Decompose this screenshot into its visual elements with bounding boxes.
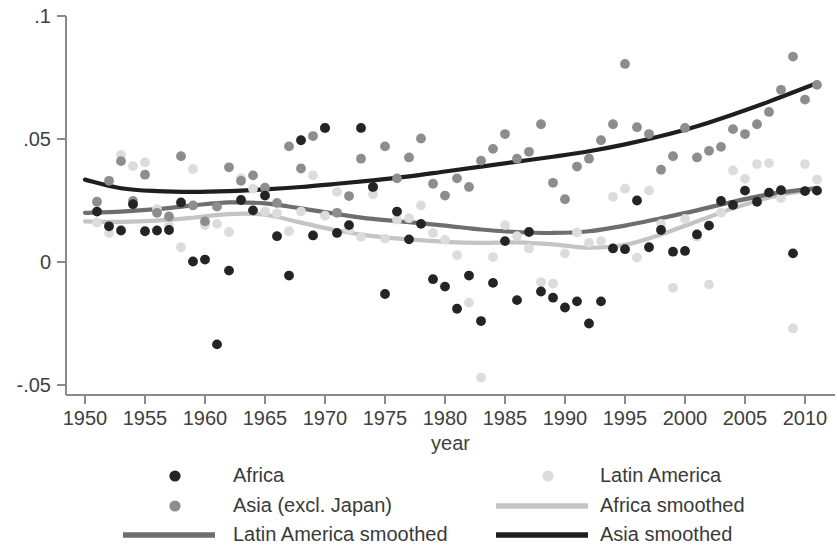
data-point — [92, 207, 102, 217]
data-point — [740, 174, 750, 184]
data-point — [332, 208, 342, 218]
scatter-series-africa — [92, 123, 822, 349]
data-point — [584, 319, 594, 329]
data-point — [416, 134, 426, 144]
data-point — [740, 129, 750, 139]
data-point — [248, 184, 258, 194]
data-point — [116, 226, 126, 236]
data-point — [224, 162, 234, 172]
data-point — [680, 246, 690, 256]
data-point — [596, 296, 606, 306]
data-point — [176, 242, 186, 252]
legend-label: Africa smoothed — [600, 494, 745, 516]
data-point — [812, 80, 822, 90]
scatter-series-asia-excl-japan — [92, 52, 822, 227]
data-point — [308, 131, 318, 141]
data-point — [308, 171, 318, 181]
data-point — [272, 231, 282, 241]
data-point — [116, 156, 126, 166]
data-point — [392, 173, 402, 183]
data-point — [224, 227, 234, 237]
data-point — [464, 298, 474, 308]
data-point — [812, 175, 822, 185]
x-tick-label: 1955 — [123, 407, 168, 429]
data-point — [404, 153, 414, 163]
legend-label: Africa — [233, 464, 285, 486]
data-point — [572, 162, 582, 172]
data-point — [308, 231, 318, 241]
data-point — [512, 295, 522, 305]
data-point — [524, 147, 534, 157]
data-point — [212, 202, 222, 212]
data-point — [236, 176, 246, 186]
legend-label: Asia smoothed — [600, 523, 732, 545]
data-point — [380, 289, 390, 299]
data-point — [104, 221, 114, 231]
data-point — [296, 164, 306, 174]
data-point — [800, 95, 810, 105]
data-point — [716, 196, 726, 206]
data-point — [800, 159, 810, 169]
data-point — [200, 217, 210, 227]
data-point — [428, 179, 438, 189]
data-point — [476, 316, 486, 326]
data-point — [404, 234, 414, 244]
legend-dot-marker-icon — [169, 500, 180, 511]
data-point — [788, 52, 798, 62]
data-point — [356, 154, 366, 164]
data-point — [584, 238, 594, 248]
data-point — [332, 228, 342, 238]
data-point — [632, 122, 642, 132]
data-point — [644, 186, 654, 196]
data-point — [548, 178, 558, 188]
data-point — [644, 129, 654, 139]
data-point — [500, 129, 510, 139]
y-tick-label: .05 — [23, 128, 51, 150]
trend-line-asia-smoothed — [85, 83, 817, 192]
data-point — [560, 248, 570, 258]
data-point — [188, 164, 198, 174]
data-point — [260, 207, 270, 217]
data-point — [752, 197, 762, 207]
legend-dot-marker-icon — [169, 470, 180, 481]
x-tick-label: 1985 — [483, 407, 528, 429]
legend-item-asia-smoothed[interactable]: Asia smoothed — [496, 523, 732, 545]
data-point — [488, 144, 498, 154]
y-tick-label: -.05 — [17, 374, 51, 396]
data-point — [536, 277, 546, 287]
data-point — [668, 151, 678, 161]
legend-item-africa-smoothed[interactable]: Africa smoothed — [496, 494, 745, 516]
legend-item-asia-excl-japan[interactable]: Asia (excl. Japan) — [169, 494, 392, 516]
x-axis-ticks: 1950195519601965197019751980198519901995… — [63, 395, 828, 429]
data-point — [440, 191, 450, 201]
data-point — [176, 151, 186, 161]
legend-item-africa[interactable]: Africa — [169, 464, 285, 486]
data-point — [512, 154, 522, 164]
data-point — [608, 119, 618, 129]
data-point — [728, 166, 738, 176]
data-point — [140, 226, 150, 236]
data-point — [284, 226, 294, 236]
legend-item-latin-america-smoothed[interactable]: Latin America smoothed — [123, 523, 448, 545]
data-point — [176, 198, 186, 208]
data-point — [632, 253, 642, 263]
data-point — [416, 201, 426, 211]
legend-label: Latin America — [600, 464, 722, 486]
chart-canvas: -.050.05.1 19501955196019651970197519801… — [0, 0, 837, 552]
data-point — [656, 165, 666, 175]
data-point — [608, 244, 618, 254]
y-tick-label: .1 — [34, 5, 51, 27]
data-point — [704, 280, 714, 290]
legend-label: Asia (excl. Japan) — [233, 494, 392, 516]
data-point — [380, 234, 390, 244]
data-point — [560, 194, 570, 204]
legend-item-latin-america[interactable]: Latin America — [542, 464, 722, 486]
x-tick-label: 1950 — [63, 407, 108, 429]
data-point — [368, 182, 378, 192]
data-point — [788, 248, 798, 258]
data-point — [740, 186, 750, 196]
legend-dot-marker-icon — [542, 470, 553, 481]
legend-label: Latin America smoothed — [233, 523, 448, 545]
data-point — [608, 192, 618, 202]
data-point — [524, 227, 534, 237]
